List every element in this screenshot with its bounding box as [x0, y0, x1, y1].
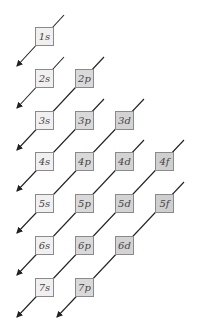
- orbital-4f: 4f: [155, 152, 174, 171]
- orbital-5s: 5s: [35, 194, 54, 213]
- orbital-5d: 5d: [115, 194, 134, 213]
- orbital-6s: 6s: [35, 236, 54, 255]
- orbital-4d: 4d: [115, 152, 134, 171]
- orbital-7s: 7s: [35, 278, 54, 297]
- orbital-6p: 6p: [75, 236, 94, 255]
- orbital-6d: 6d: [115, 236, 134, 255]
- orbital-1s: 1s: [35, 27, 54, 46]
- orbital-4p: 4p: [75, 152, 94, 171]
- orbital-3p: 3p: [75, 111, 94, 130]
- diagonal-arrows: [0, 0, 206, 329]
- orbital-2p: 2p: [75, 69, 94, 88]
- orbital-5f: 5f: [155, 194, 174, 213]
- orbital-3d: 3d: [115, 111, 134, 130]
- orbital-7p: 7p: [75, 278, 94, 297]
- orbital-2s: 2s: [35, 69, 54, 88]
- orbital-5p: 5p: [75, 194, 94, 213]
- orbital-3s: 3s: [35, 111, 54, 130]
- orbital-4s: 4s: [35, 152, 54, 171]
